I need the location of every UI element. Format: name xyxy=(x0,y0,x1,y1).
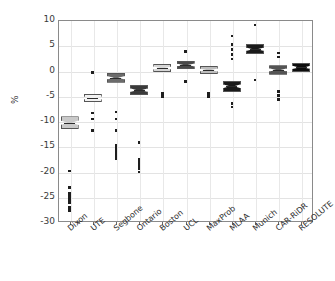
outlier-point xyxy=(184,50,187,53)
outlier-point xyxy=(91,129,94,132)
outlier-point xyxy=(254,24,257,27)
outlier-point xyxy=(68,170,71,173)
median-line xyxy=(157,68,168,69)
outlier-point xyxy=(231,106,234,109)
outlier-point xyxy=(207,92,210,95)
gridline-horizontal xyxy=(59,173,312,174)
outlier-point xyxy=(277,98,280,101)
y-axis-tick-label: -30 xyxy=(40,217,55,226)
gridline-vertical xyxy=(210,21,211,221)
outlier-point xyxy=(231,43,234,46)
outlier-point xyxy=(68,202,71,205)
outlier-point xyxy=(138,141,141,144)
outlier-point xyxy=(231,53,234,56)
median-line xyxy=(226,86,237,87)
outlier-point xyxy=(207,95,210,98)
outlier-point xyxy=(231,48,234,51)
outlier-point xyxy=(277,94,280,97)
outlier-point xyxy=(184,80,187,83)
gridline-horizontal xyxy=(59,198,312,199)
median-line xyxy=(110,78,121,79)
median-line xyxy=(64,123,75,124)
y-axis-label: % xyxy=(10,95,20,104)
outlier-point xyxy=(231,58,234,61)
median-line xyxy=(87,98,98,99)
median-line xyxy=(250,49,261,50)
boxplot-figure: % 1050-5-10-15-20-25-30 DixonUTESegboneO… xyxy=(0,0,335,281)
outlier-point xyxy=(115,111,118,114)
y-axis-tick-label: -25 xyxy=(40,192,55,201)
gridline-vertical xyxy=(302,21,303,221)
y-axis-tick-label: 5 xyxy=(49,40,55,49)
y-axis-tick-label: -15 xyxy=(40,141,55,150)
y-axis-tick-label: -20 xyxy=(40,167,55,176)
gridline-vertical xyxy=(117,21,118,221)
outlier-point xyxy=(68,186,71,189)
outlier-point xyxy=(115,157,118,160)
outlier-point xyxy=(91,71,94,74)
median-line xyxy=(296,67,307,68)
outlier-point xyxy=(115,118,118,121)
y-axis-tick-label: -5 xyxy=(46,91,55,100)
outlier-point xyxy=(138,171,141,174)
gridline-vertical xyxy=(140,21,141,221)
outlier-point xyxy=(277,90,280,93)
outlier-point xyxy=(161,95,164,98)
median-line xyxy=(273,70,284,71)
y-axis-tick-label: 0 xyxy=(49,66,55,75)
gridline-vertical xyxy=(233,21,234,221)
median-line xyxy=(134,90,145,91)
outlier-point xyxy=(68,192,71,195)
gridline-horizontal xyxy=(59,147,312,148)
y-axis-tick-labels: 1050-5-10-15-20-25-30 xyxy=(22,0,55,281)
outlier-point xyxy=(231,35,234,38)
outlier-point xyxy=(277,56,280,59)
median-line xyxy=(180,65,191,66)
gridline-vertical xyxy=(94,21,95,221)
outlier-point xyxy=(277,52,280,55)
gridline-horizontal xyxy=(59,122,312,123)
y-axis-tick-label: -10 xyxy=(40,116,55,125)
y-axis-tick-label: 10 xyxy=(44,15,55,24)
outlier-point xyxy=(68,210,71,213)
outlier-point xyxy=(254,79,257,82)
gridline-vertical xyxy=(163,21,164,221)
gridline-horizontal xyxy=(59,46,312,47)
outlier-point xyxy=(115,129,118,132)
outlier-point xyxy=(91,118,94,121)
outlier-point xyxy=(231,102,234,105)
outlier-point xyxy=(91,112,94,115)
median-line xyxy=(203,70,214,71)
